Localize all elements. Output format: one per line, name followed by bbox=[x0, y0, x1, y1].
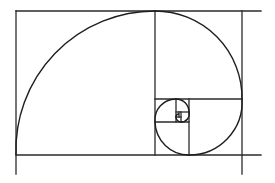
spiral-arc-5 bbox=[155, 99, 176, 122]
fibonacci-rectangles bbox=[16, 11, 261, 174]
spiral-arc-8 bbox=[176, 117, 181, 122]
spiral-arc-4 bbox=[155, 122, 189, 155]
spiral-arc-7 bbox=[181, 112, 189, 122]
spiral-arc-6 bbox=[176, 99, 189, 112]
spiral-arc-2 bbox=[155, 11, 242, 99]
spiral-arc-1 bbox=[16, 11, 155, 155]
spiral-arc-3 bbox=[189, 99, 242, 155]
golden-spiral bbox=[16, 11, 242, 155]
golden-spiral-diagram bbox=[0, 0, 275, 183]
